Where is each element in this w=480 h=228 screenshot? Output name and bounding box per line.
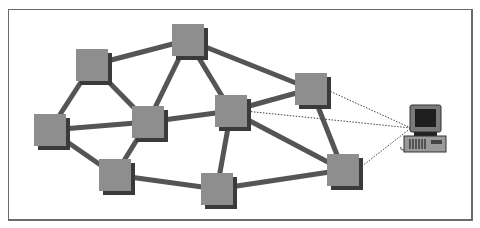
node-C [34,114,70,150]
node-G [99,159,135,195]
node-D [132,106,168,142]
node-H [201,173,237,209]
node-A [76,49,112,85]
computer-icon [401,105,446,152]
node-F [295,73,331,109]
network-diagram [0,0,480,228]
dotted-link-F-computer [325,89,411,128]
dotted-link-I-computer [357,128,411,170]
node-B [172,24,208,60]
node-E [215,95,251,131]
node-I [327,154,363,190]
